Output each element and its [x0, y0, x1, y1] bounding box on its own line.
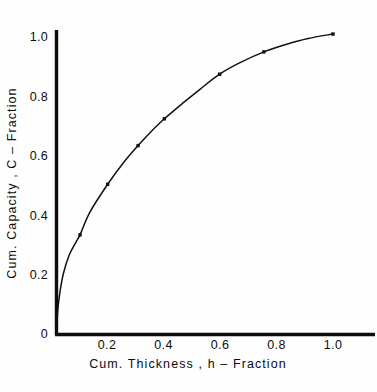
data-point-marker [78, 233, 81, 236]
x-tick-label-4: 0.8 [267, 338, 285, 352]
data-point-marker [218, 72, 221, 75]
chart-plot-area [0, 0, 377, 392]
x-tick-label-3: 0.6 [211, 338, 229, 352]
figure-canvas: 0.2 0.4 0.6 0.8 1.0 1.0 0.8 0.6 0.4 0.2 … [0, 0, 377, 392]
data-point-marker [163, 117, 166, 120]
data-point-marker [136, 144, 139, 147]
data-curve [57, 34, 334, 334]
y-axis-title: Cum. Capacity , C – Fraction [5, 87, 19, 278]
x-tick-label-2: 0.4 [154, 338, 172, 352]
data-point-marker [262, 50, 265, 53]
data-point-marker [106, 183, 109, 186]
y-tick-label-1: 1.0 [18, 30, 48, 44]
y-tick-label-4: 0.4 [18, 209, 48, 223]
y-tick-label-5: 0.2 [18, 268, 48, 282]
data-point-marker [331, 32, 334, 35]
x-tick-label-5: 1.0 [324, 338, 342, 352]
y-tick-label-6: 0 [18, 327, 48, 341]
y-tick-label-2: 0.8 [18, 90, 48, 104]
y-tick-label-3: 0.6 [18, 149, 48, 163]
x-tick-label-1: 0.2 [98, 338, 116, 352]
x-axis-title: Cum. Thickness , h – Fraction [89, 357, 287, 371]
data-point-markers [78, 32, 334, 236]
